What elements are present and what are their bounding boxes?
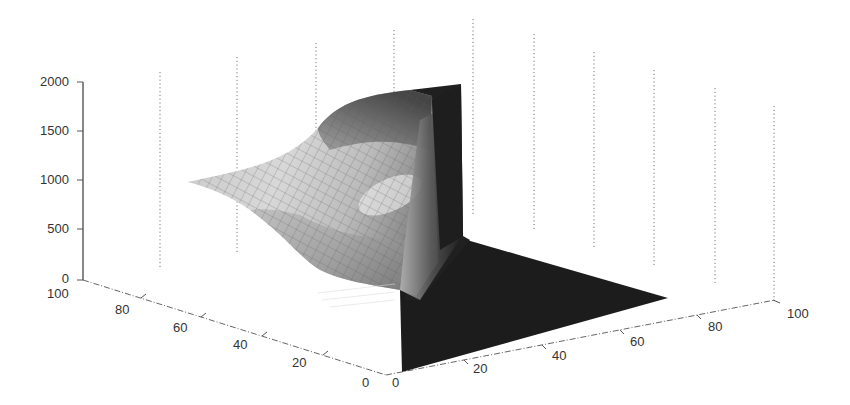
z-tick-0: 0 [9,272,69,285]
x-tick-0: 0 [392,376,399,389]
y-tick-20: 20 [292,356,306,369]
z-tick-1500: 1500 [9,124,69,137]
y-tick-0: 0 [362,376,369,389]
y-tick-80: 80 [115,303,129,316]
y-tick-100: 100 [47,287,69,300]
y-tick-40: 40 [233,338,247,351]
y-tick-60: 60 [173,321,187,334]
z-tick-500: 500 [9,222,69,235]
x-tick-80: 80 [708,320,722,333]
z-tick-2000: 2000 [9,75,69,88]
x-tick-40: 40 [552,349,566,362]
z-tick-1000: 1000 [9,173,69,186]
y-axis-line [83,280,386,375]
surface [188,84,668,372]
x-tick-20: 20 [473,362,487,375]
x-tick-100: 100 [787,307,809,320]
faint-base-lines [318,284,395,307]
surface-plot [0,0,850,405]
x-tick-60: 60 [630,335,644,348]
